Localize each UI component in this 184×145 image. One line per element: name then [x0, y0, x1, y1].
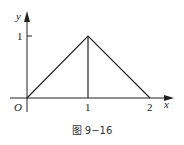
x-tick-label-1: 1: [85, 101, 91, 113]
triangle-function-diagram: y 1 O 1 2 x 图 9−16: [0, 0, 184, 145]
x-axis-label: x: [163, 98, 169, 110]
y-tick-label-1: 1: [17, 30, 23, 42]
y-axis-arrow-icon: [24, 11, 30, 22]
x-tick-label-2: 2: [147, 101, 153, 113]
figure-caption: 图 9−16: [72, 125, 113, 136]
y-axis-label: y: [15, 10, 21, 22]
origin-label: O: [14, 101, 22, 113]
